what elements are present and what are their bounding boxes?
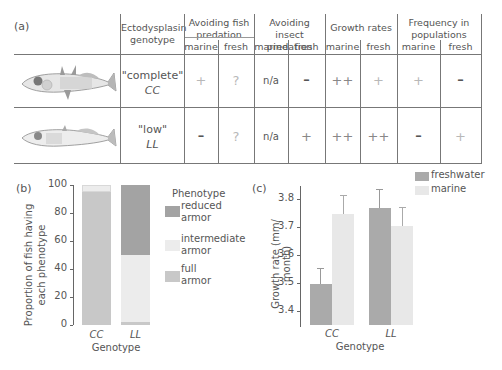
x-tick-ll: LL [369, 328, 413, 339]
y-tick-mark [70, 241, 73, 242]
panel-a-label: (a) [14, 20, 29, 33]
x-axis-label: Genotype [320, 341, 400, 352]
legend-swatch-full [165, 271, 180, 282]
header-genotype-line2: genotype [121, 34, 184, 46]
table-rule [14, 54, 481, 55]
x-tick-cc: CC [82, 329, 111, 340]
y-tick: 3.5 [272, 276, 294, 287]
legend-swatch-intermediate [165, 240, 180, 251]
header-growth-rates: Growth rates [325, 22, 397, 34]
x-axis-label: Genotype [80, 342, 152, 353]
legend-item-intermediate: intermediate armor [181, 233, 245, 257]
header-line: Avoiding insect [254, 17, 325, 41]
subheader-fresh: fresh [360, 41, 397, 52]
cell-insect-fresh-cc: – [288, 72, 325, 87]
header-line: Avoiding fish [184, 17, 254, 29]
cell-insect-marine-ll: n/a [254, 131, 288, 142]
y-tick: 3.4 [272, 304, 294, 315]
error-cap [399, 207, 406, 208]
cell-fish-marine-ll: – [184, 128, 218, 143]
bar-ll-intermediate [121, 255, 150, 322]
header-line: Growth rates [325, 22, 397, 34]
y-tick-mark [297, 283, 300, 284]
legend-text: reduced [181, 200, 222, 212]
complete-armor-fish-illustration [16, 58, 118, 104]
subheader-marine: marine [397, 41, 440, 52]
table-rule [14, 163, 481, 164]
header-frequency: Frequency in populations [397, 17, 481, 41]
y-tick: 60 [45, 234, 67, 245]
subheader-fresh: fresh [288, 41, 325, 52]
y-tick: 40 [45, 262, 67, 273]
y-tick-mark [70, 297, 73, 298]
legend-item-freshwater: freshwater [431, 169, 485, 180]
legend-text: armor [181, 245, 245, 257]
error-cap [376, 189, 383, 190]
x-tick-cc: CC [310, 328, 354, 339]
genotype-low: "low" LL [121, 122, 184, 152]
subheader-marine: marine [254, 41, 288, 52]
genotype-code: LL [121, 137, 184, 152]
y-axis [300, 186, 301, 327]
table-rule [14, 107, 481, 108]
subheader-marine: marine [325, 41, 360, 52]
bar-cc-marine [332, 214, 354, 325]
genotype-code: CC [121, 83, 184, 98]
cell-growth-fresh-cc: + [360, 73, 397, 88]
y-tick: 3.6 [272, 248, 294, 259]
y-tick: 3.7 [272, 220, 294, 231]
legend-text: armor [181, 275, 211, 287]
genotype-complete: "complete" CC [121, 68, 184, 98]
subheader-fresh: fresh [440, 41, 481, 52]
bar-cc-intermediate [82, 185, 111, 192]
cell-fish-marine-cc: + [184, 73, 218, 88]
legend-title: Phenotype [172, 188, 225, 199]
bar-ll-freshwater [369, 208, 391, 325]
legend-text: intermediate [181, 233, 245, 245]
legend-text: full [181, 263, 211, 275]
genotype-name: "complete" [121, 68, 184, 83]
bar-cc-full [82, 192, 111, 325]
low-armor-fish-illustration [16, 112, 118, 158]
genotype-name: "low" [121, 122, 184, 137]
y-tick-mark [297, 199, 300, 200]
legend-item-marine: marine [431, 183, 466, 194]
y-tick: 0 [45, 318, 67, 329]
cell-fish-fresh-cc: ? [218, 73, 254, 88]
legend-swatch-reduced [165, 206, 180, 217]
subheader-fresh: fresh [218, 41, 254, 52]
cell-freq-marine-cc: + [397, 73, 440, 88]
x-tick-ll: LL [121, 329, 150, 340]
y-tick-mark [70, 269, 73, 270]
bar-ll-full [121, 322, 150, 325]
error-bar [320, 268, 321, 284]
error-cap [317, 268, 324, 269]
table-divider [218, 40, 219, 164]
legend-swatch-freshwater [415, 172, 429, 181]
table-divider [360, 40, 361, 164]
bar-cc-freshwater [310, 284, 332, 325]
cell-insect-marine-cc: n/a [254, 75, 288, 86]
y-tick-mark [297, 227, 300, 228]
legend-item-full: full armor [181, 263, 211, 287]
cell-growth-fresh-ll: ++ [360, 129, 397, 144]
table-divider [481, 14, 482, 164]
bar-ll-reduced [121, 185, 150, 255]
error-bar [379, 189, 380, 208]
y-axis [73, 185, 74, 325]
y-axis-label-line1: Proportion of fish having [22, 185, 35, 345]
error-bar [402, 207, 403, 226]
y-tick-mark [70, 213, 73, 214]
y-tick: 100 [45, 178, 67, 189]
y-tick: 3.8 [272, 192, 294, 203]
header-genotype: Ectodysplasin genotype [121, 22, 184, 46]
cell-fish-fresh-ll: ? [218, 129, 254, 144]
y-tick-mark [70, 325, 73, 326]
legend-text: armor [181, 212, 222, 224]
cell-insect-fresh-ll: + [288, 129, 325, 144]
cell-freq-marine-ll: – [397, 128, 440, 143]
bar-ll-marine [391, 226, 413, 325]
y-tick: 80 [45, 206, 67, 217]
legend-swatch-marine [415, 186, 429, 195]
error-cap [340, 195, 347, 196]
